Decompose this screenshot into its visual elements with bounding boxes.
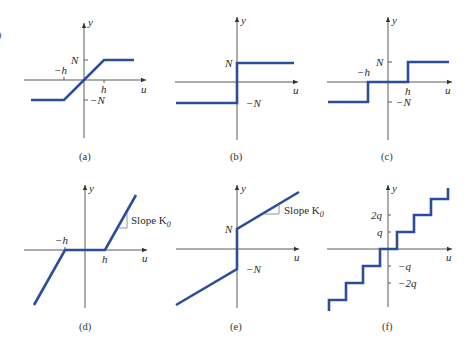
label-q: q (377, 226, 383, 238)
y-axis-label: y (87, 16, 93, 28)
label-neg-2q: −2q (398, 277, 417, 289)
slope-label: Slope K0 (131, 214, 171, 229)
y-axis-label: y (240, 182, 246, 194)
label-N: N (70, 54, 79, 66)
u-axis-label: u (445, 84, 451, 96)
nonlinearity-figure: 0 y u N −N h −h (a) y u N −N (b) y u N (0, 0, 468, 349)
slope-label: Slope K0 (284, 204, 324, 219)
label-neg-N: −N (90, 94, 105, 106)
edge-fragment: 0 (0, 30, 1, 41)
u-axis-label: u (141, 83, 147, 95)
u-axis-label: u (142, 252, 148, 264)
label-N: N (224, 223, 233, 235)
label-neg-N: −N (246, 263, 261, 275)
caption-c: (c) (381, 151, 393, 163)
caption-e: (e) (230, 321, 242, 333)
label-neg-N: −N (246, 97, 261, 109)
panel-b: y u N −N (b) (175, 14, 299, 163)
y-axis-label: y (240, 14, 246, 26)
caption-f: (f) (382, 321, 393, 333)
label-N: N (375, 56, 384, 68)
caption-d: (d) (79, 321, 92, 333)
u-axis-label: u (293, 84, 299, 96)
caption-b: (b) (230, 151, 243, 163)
panel-e: y u N −N Slope K0 (e) (176, 182, 324, 333)
label-2q: 2q (371, 209, 383, 221)
label-h: h (101, 83, 107, 95)
panel-c: y u N −N h −h (c) (327, 14, 452, 163)
u-axis-label: u (446, 251, 452, 263)
label-neg-h: −h (357, 66, 370, 78)
y-axis-label: y (88, 182, 94, 194)
label-h: h (405, 85, 411, 97)
panel-f: y u q 2q −q −2q (f) (327, 182, 452, 333)
label-neg-h: −h (55, 234, 68, 246)
u-axis-label: u (294, 251, 300, 263)
label-h: h (102, 253, 108, 265)
label-N: N (224, 57, 233, 69)
panel-a: y u N −N h −h (a) (24, 16, 147, 163)
label-neg-h: −h (54, 64, 67, 76)
panel-d: y u h −h Slope K0 (d) (24, 182, 171, 333)
y-axis-label: y (391, 14, 397, 26)
caption-a: (a) (79, 151, 91, 163)
y-axis-label: y (391, 182, 397, 194)
label-neg-q: −q (398, 260, 411, 272)
relay-curve (176, 63, 294, 103)
label-neg-N: −N (396, 96, 411, 108)
